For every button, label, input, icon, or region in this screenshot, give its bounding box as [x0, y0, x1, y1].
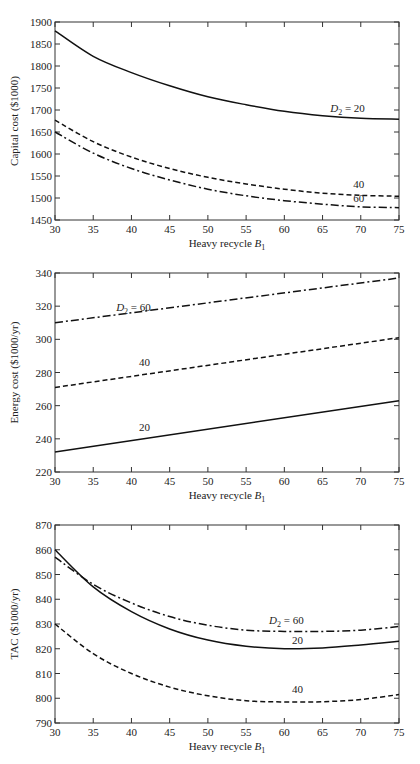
- x-tick-label: 60: [279, 726, 291, 738]
- y-tick-label: 260: [36, 400, 53, 412]
- y-tick-label: 790: [36, 717, 53, 729]
- y-tick-label: 300: [36, 333, 53, 345]
- y-tick-label: 860: [36, 544, 53, 556]
- x-tick-label: 60: [279, 475, 291, 487]
- curve-annotation: D2 = 60: [268, 614, 304, 629]
- y-tick-label: 850: [36, 569, 53, 581]
- chart-panel-3: 3035404550556065707579080081082083084085…: [8, 519, 405, 755]
- y-tick-label: 320: [36, 300, 53, 312]
- x-tick-label: 70: [355, 475, 367, 487]
- x-tick-label: 65: [317, 475, 329, 487]
- y-tick-label: 1900: [30, 16, 53, 28]
- y-tick-label: 1500: [30, 192, 53, 204]
- y-tick-label: 870: [36, 519, 53, 531]
- x-tick-label: 75: [394, 726, 406, 738]
- series-line-D260: [55, 278, 399, 323]
- y-tick-label: 820: [36, 643, 53, 655]
- y-tick-label: 220: [36, 466, 53, 478]
- x-tick-label: 50: [202, 726, 214, 738]
- x-tick-label: 35: [88, 475, 100, 487]
- y-tick-label: 840: [36, 593, 53, 605]
- y-tick-label: 1650: [30, 126, 53, 138]
- y-axis-label: Capital cost ($1000): [8, 76, 21, 166]
- curve-annotation: 20: [292, 634, 304, 646]
- curve-annotation: 60: [353, 192, 365, 204]
- x-axis-label: Heavy recycle B1: [189, 489, 266, 504]
- x-tick-label: 55: [241, 223, 253, 235]
- figure: 3035404550556065707514501500155016001650…: [0, 0, 420, 764]
- x-tick-label: 40: [126, 726, 138, 738]
- x-tick-label: 55: [241, 726, 253, 738]
- series-line-D220: [55, 401, 399, 452]
- x-tick-label: 40: [126, 223, 138, 235]
- series-line-D260: [55, 132, 399, 208]
- y-tick-label: 1700: [30, 104, 53, 116]
- x-tick-label: 70: [355, 726, 367, 738]
- series-line-D260: [55, 557, 399, 631]
- x-tick-label: 40: [126, 475, 138, 487]
- chart-panel-2: 3035404550556065707522024026028030032034…: [8, 267, 405, 504]
- y-tick-label: 240: [36, 433, 53, 445]
- plot-frame: [55, 525, 399, 723]
- x-tick-label: 35: [88, 223, 100, 235]
- x-axis-label: Heavy recycle B1: [189, 237, 266, 252]
- x-tick-label: 75: [394, 223, 406, 235]
- x-tick-label: 45: [164, 223, 176, 235]
- y-tick-label: 1850: [30, 38, 53, 50]
- series-line-D240: [55, 120, 399, 196]
- y-tick-label: 1450: [30, 214, 53, 226]
- x-tick-label: 55: [241, 475, 253, 487]
- y-axis-label: TAC ($1000/yr): [8, 588, 21, 659]
- x-tick-label: 50: [202, 223, 214, 235]
- y-tick-label: 1550: [30, 170, 53, 182]
- x-tick-label: 50: [202, 475, 214, 487]
- x-tick-label: 65: [317, 726, 329, 738]
- y-tick-label: 830: [36, 618, 53, 630]
- x-tick-label: 45: [164, 475, 176, 487]
- x-tick-label: 60: [279, 223, 291, 235]
- plot-frame: [55, 22, 399, 220]
- x-tick-label: 35: [88, 726, 100, 738]
- curve-annotation: 40: [139, 356, 151, 368]
- plot-frame: [55, 273, 399, 472]
- x-axis-label: Heavy recycle B1: [189, 740, 266, 755]
- curve-annotation: D2 = 20: [329, 102, 365, 117]
- x-tick-label: 45: [164, 726, 176, 738]
- x-tick-label: 70: [355, 223, 367, 235]
- y-tick-label: 810: [36, 668, 53, 680]
- y-tick-label: 1800: [30, 60, 53, 72]
- y-tick-label: 340: [36, 267, 53, 279]
- series-line-D240: [55, 624, 399, 702]
- curve-annotation: 40: [353, 178, 365, 190]
- y-tick-label: 1600: [30, 148, 53, 160]
- y-tick-label: 800: [36, 692, 53, 704]
- y-axis-label: Energy cost ($1000/yr): [8, 321, 21, 423]
- x-tick-label: 65: [317, 223, 329, 235]
- x-tick-label: 75: [394, 475, 406, 487]
- series-line-D220: [55, 550, 399, 649]
- curve-annotation: 40: [292, 683, 304, 695]
- chart-panel-1: 3035404550556065707514501500155016001650…: [8, 16, 405, 252]
- y-tick-label: 280: [36, 367, 53, 379]
- curve-annotation: 20: [139, 421, 151, 433]
- y-tick-label: 1750: [30, 82, 53, 94]
- series-line-D240: [55, 338, 399, 388]
